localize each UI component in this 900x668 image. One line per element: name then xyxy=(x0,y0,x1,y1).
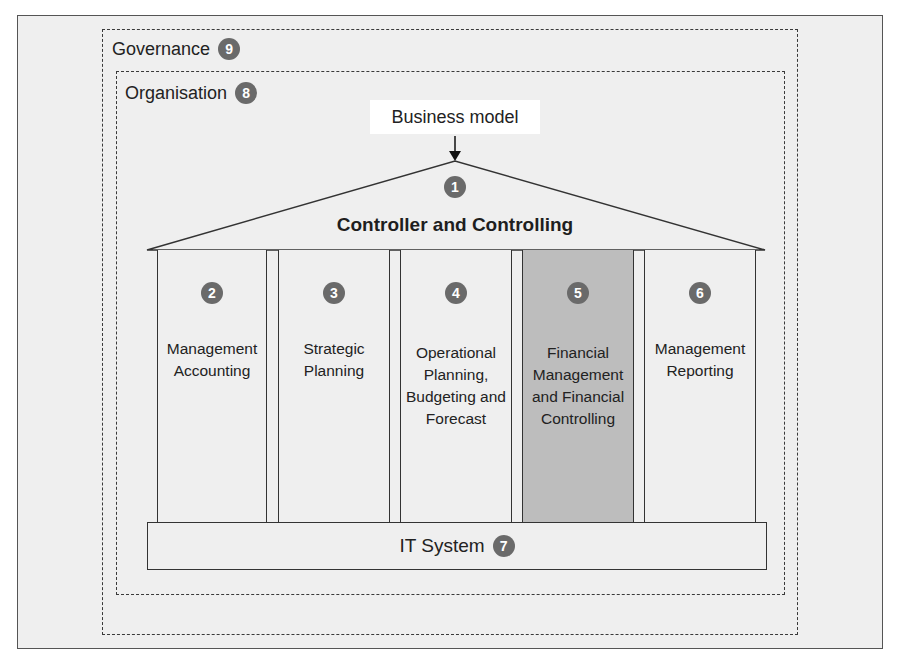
pillar-management-accounting: 2 Management Accounting xyxy=(157,250,267,522)
pillar-label: Management Reporting xyxy=(645,338,755,382)
number-badge-7: 7 xyxy=(493,535,515,557)
arrow-down-icon xyxy=(449,151,461,161)
pillar-label: Management Accounting xyxy=(158,338,266,382)
pillar-financial-management: 5 Financial Management and Financial Con… xyxy=(522,250,634,522)
it-system-text: IT System xyxy=(399,535,484,557)
number-badge-6: 6 xyxy=(689,282,711,304)
pillar-strategic-planning: 3 Strategic Planning xyxy=(278,250,390,522)
roof-triangle xyxy=(147,161,765,250)
pillar-operational-planning: 4 Operational Planning, Budgeting and Fo… xyxy=(400,250,512,522)
number-badge-3: 3 xyxy=(323,282,345,304)
number-badge-1: 1 xyxy=(444,176,466,198)
pillar-label: Strategic Planning xyxy=(279,338,389,382)
roof-title: Controller and Controlling xyxy=(150,214,760,236)
number-badge-2: 2 xyxy=(201,282,223,304)
number-badge-5: 5 xyxy=(567,282,589,304)
number-badge-4: 4 xyxy=(445,282,467,304)
pillar-label: Operational Planning, Budgeting and Fore… xyxy=(401,342,511,430)
it-system-base: IT System 7 xyxy=(147,522,767,570)
pillar-label: Financial Management and Financial Contr… xyxy=(523,342,633,430)
pillar-management-reporting: 6 Management Reporting xyxy=(644,250,756,522)
